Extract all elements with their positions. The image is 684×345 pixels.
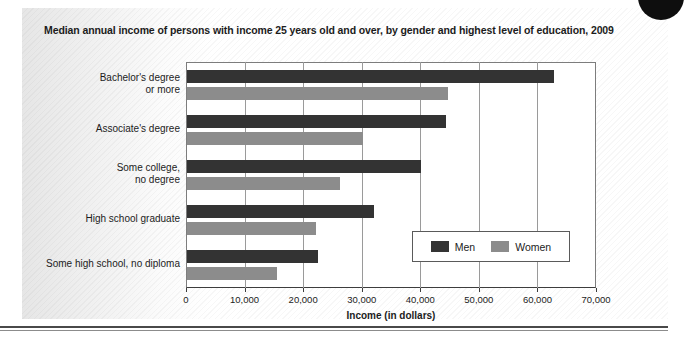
page-bottom-rule-thin — [0, 330, 668, 331]
x-axis-tick-label: 60,000 — [523, 294, 552, 305]
bar-men — [187, 160, 421, 173]
x-axis-tick-mark — [245, 288, 246, 292]
bar-women — [187, 132, 363, 145]
x-axis-tick-label: 0 — [183, 294, 188, 305]
x-axis-tick-mark — [596, 288, 597, 292]
x-axis-tick-mark — [303, 288, 304, 292]
chart-legend: Men Women — [412, 231, 570, 262]
legend-swatch-men-icon — [431, 241, 449, 252]
bar-women — [187, 222, 316, 235]
y-axis-category-label: Some high school, no diploma — [46, 258, 180, 270]
legend-label-men: Men — [455, 241, 475, 253]
bar-men — [187, 205, 374, 218]
x-axis-tick-mark — [537, 288, 538, 292]
bar-men — [187, 115, 446, 128]
legend-entry-men: Men — [431, 241, 475, 253]
x-axis-tick-mark — [479, 288, 480, 292]
legend-swatch-women-icon — [491, 241, 509, 252]
bar-men — [187, 70, 554, 83]
bar-men — [187, 250, 318, 263]
x-axis-tick-mark — [186, 288, 187, 292]
bar-women — [187, 87, 448, 100]
x-axis-title: Income (in dollars) — [186, 310, 596, 321]
x-axis-tick-mark — [420, 288, 421, 292]
x-axis-tick-mark — [362, 288, 363, 292]
chart-title: Median annual income of persons with inc… — [44, 24, 644, 36]
x-axis-tick-label: 40,000 — [406, 294, 435, 305]
x-axis-tick-label: 50,000 — [464, 294, 493, 305]
y-axis-category-label: Bachelor's degree or more — [100, 72, 180, 96]
x-axis-tick-label: 20,000 — [289, 294, 318, 305]
y-axis-category-label: High school graduate — [85, 213, 180, 225]
bar-women — [187, 267, 277, 280]
x-axis-tick-label: 10,000 — [230, 294, 259, 305]
page-bottom-rule-thick — [0, 326, 668, 328]
y-axis-category-label: Associate's degree — [96, 123, 180, 135]
legend-entry-women: Women — [491, 241, 551, 253]
x-axis-tick-label: 70,000 — [581, 294, 610, 305]
x-axis-tick-label: 30,000 — [347, 294, 376, 305]
legend-label-women: Women — [515, 241, 551, 253]
y-axis-category-label: Some college, no degree — [117, 162, 180, 186]
bar-women — [187, 177, 340, 190]
